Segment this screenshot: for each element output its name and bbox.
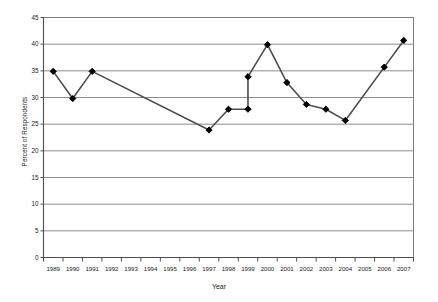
plot-area: [0, 0, 438, 302]
plot-background: [44, 18, 414, 258]
line-chart: Percent of Respondents Year 051015202530…: [0, 0, 438, 302]
